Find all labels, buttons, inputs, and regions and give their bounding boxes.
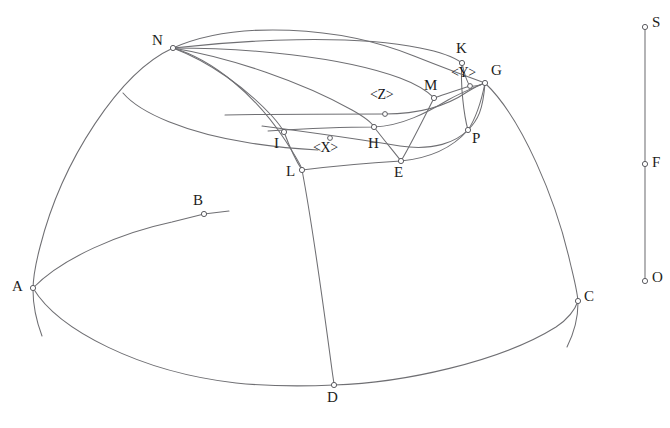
point-marker-p xyxy=(465,127,470,132)
point-marker-i xyxy=(281,129,286,134)
point-marker-l xyxy=(299,167,304,172)
point-marker-a xyxy=(30,285,35,290)
point-label-h: H xyxy=(368,136,379,151)
point-label-g: G xyxy=(491,63,502,78)
point-label-d: D xyxy=(327,390,338,405)
point-label-m: M xyxy=(424,78,438,93)
angle-vertex-marker-z xyxy=(383,112,388,117)
curve-dome-outer-silhouette-left xyxy=(33,48,173,336)
angle-vertex-marker-y xyxy=(468,84,473,89)
curve-dome-outer-silhouette-right xyxy=(485,83,578,347)
angle-label-z: <Z> xyxy=(370,88,393,102)
point-label-p: P xyxy=(472,131,481,146)
point-marker-o xyxy=(642,278,647,283)
point-marker-m xyxy=(431,95,436,100)
curve-layer xyxy=(33,30,645,386)
point-marker-s xyxy=(642,24,647,29)
angle-label-x: <X> xyxy=(313,141,338,155)
angle-label-y: <Y> xyxy=(451,66,476,80)
point-marker-b xyxy=(201,211,206,216)
point-label-n: N xyxy=(152,33,163,48)
point-marker-h xyxy=(371,124,376,129)
curve-horizon-tangent-B xyxy=(204,211,229,214)
curve-arc-M-to-E xyxy=(401,98,434,161)
curve-horizon-ellipse-back-AB xyxy=(33,214,204,288)
point-marker-e xyxy=(398,158,403,163)
point-label-i: I xyxy=(274,136,279,151)
point-label-c: C xyxy=(584,289,594,304)
curve-latitude-arc-through-Z xyxy=(225,83,485,115)
diagram-canvas: NKG<Y>M<Z>PIH<X>ELBACDSFO xyxy=(0,0,670,428)
point-marker-f xyxy=(642,161,647,166)
point-label-e: E xyxy=(394,165,403,180)
point-marker-g xyxy=(482,80,487,85)
curve-meridian-N-to-M xyxy=(173,48,434,98)
point-marker-d xyxy=(331,382,336,387)
point-label-k: K xyxy=(456,41,467,56)
point-label-b: B xyxy=(193,193,203,208)
marker-layer xyxy=(30,24,647,387)
point-label-f: F xyxy=(652,155,661,170)
point-label-a: A xyxy=(12,279,23,294)
point-label-l: L xyxy=(286,164,295,179)
curve-latitude-arc-upper-small xyxy=(123,93,318,150)
point-marker-n xyxy=(170,45,175,50)
point-label-s: S xyxy=(652,15,661,30)
point-marker-c xyxy=(575,298,580,303)
curve-horizon-ellipse-front xyxy=(33,288,578,386)
spherical-diagram-svg xyxy=(0,0,670,428)
point-label-o: O xyxy=(652,270,663,285)
curve-meridian-N-to-G-outer xyxy=(173,30,485,83)
curve-meridian-N-to-K xyxy=(173,40,462,63)
